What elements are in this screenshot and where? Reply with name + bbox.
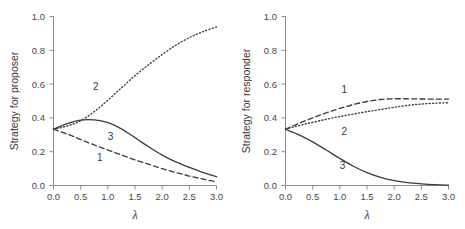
x-tick-label: 2.0 (156, 191, 169, 202)
proposer-series-3-label: 3 (108, 131, 114, 142)
proposer-series-2-label: 2 (93, 81, 99, 92)
responder-y-axis: 1.0 0.8 0.6 0.4 0.2 0.0 (264, 11, 286, 191)
chart-panel-responder: 1.0 0.8 0.6 0.4 0.2 0.0 0.0 0.5 1.0 1.5 (232, 0, 464, 229)
x-tick-label: 0.0 (47, 191, 60, 202)
responder-series-2-label: 2 (341, 126, 347, 137)
responder-series-1-curve (286, 99, 449, 129)
x-tick-label: 0.5 (74, 191, 87, 202)
x-tick-label: 3.0 (442, 191, 455, 202)
x-tick-label: 2.5 (415, 191, 428, 202)
y-tick-label: 0.4 (264, 112, 277, 123)
proposer-series-2-curve (54, 27, 217, 129)
responder-x-axis-title: λ (363, 208, 369, 222)
y-tick-label: 1.0 (264, 11, 277, 22)
x-tick-label: 1.0 (101, 191, 114, 202)
y-tick-label: 1.0 (32, 11, 45, 22)
y-tick-label: 0.6 (32, 79, 45, 90)
responder-series-1-label: 1 (341, 84, 347, 95)
responder-y-axis-title: Strategy for responder (240, 48, 252, 153)
proposer-y-axis: 1.0 0.8 0.6 0.4 0.2 0.0 (32, 11, 54, 191)
x-tick-label: 3.0 (210, 191, 223, 202)
y-tick-label: 0.2 (264, 146, 277, 157)
y-tick-label: 0.8 (32, 45, 45, 56)
proposer-x-axis-title: λ (131, 208, 137, 222)
responder-series-3-curve (286, 129, 449, 185)
responder-series-2-curve (286, 103, 449, 130)
x-tick-label: 1.5 (360, 191, 373, 202)
y-tick-label: 0.8 (264, 45, 277, 56)
proposer-y-axis-title: Strategy for proposer (8, 51, 20, 150)
figure-container: 1.0 0.8 0.6 0.4 0.2 0.0 0.0 0.5 1.0 1.5 (0, 0, 465, 229)
responder-series-3-label: 3 (340, 160, 346, 171)
y-tick-label: 0.0 (32, 180, 45, 191)
y-tick-label: 0.6 (264, 79, 277, 90)
x-tick-label: 0.5 (306, 191, 319, 202)
chart-panel-proposer: 1.0 0.8 0.6 0.4 0.2 0.0 0.0 0.5 1.0 1.5 (0, 0, 232, 229)
x-tick-label: 1.0 (333, 191, 346, 202)
x-tick-label: 2.5 (183, 191, 196, 202)
proposer-x-axis: 0.0 0.5 1.0 1.5 2.0 2.5 3.0 (47, 186, 223, 203)
x-tick-label: 2.0 (388, 191, 401, 202)
y-tick-label: 0.2 (32, 146, 45, 157)
x-tick-label: 1.5 (128, 191, 141, 202)
x-tick-label: 0.0 (279, 191, 292, 202)
proposer-plot-svg: 1.0 0.8 0.6 0.4 0.2 0.0 0.0 0.5 1.0 1.5 (0, 0, 232, 229)
proposer-series-3-curve (54, 120, 217, 177)
proposer-series-1-label: 1 (97, 152, 103, 163)
y-tick-label: 0.4 (32, 112, 45, 123)
responder-plot-svg: 1.0 0.8 0.6 0.4 0.2 0.0 0.0 0.5 1.0 1.5 (232, 0, 464, 229)
responder-x-axis: 0.0 0.5 1.0 1.5 2.0 2.5 3.0 (279, 186, 455, 203)
y-tick-label: 0.0 (264, 180, 277, 191)
